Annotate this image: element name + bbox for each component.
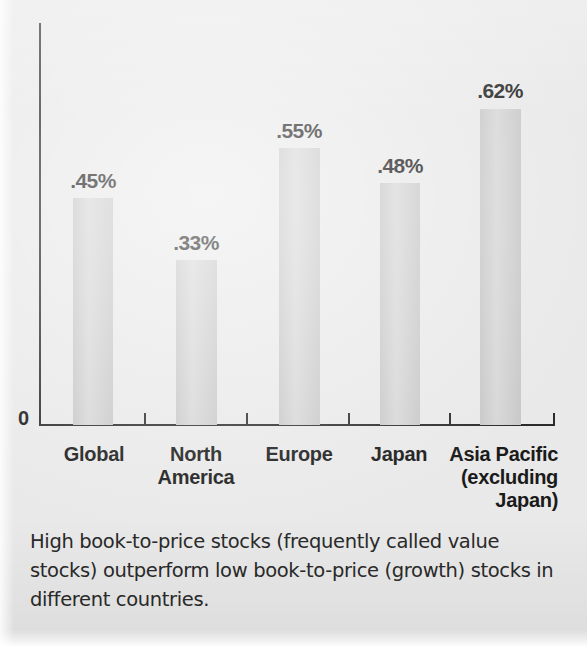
category-label-line: Asia Pacific xyxy=(428,443,558,466)
category-label-europe: Europe xyxy=(258,443,340,466)
bar-asia-pacific xyxy=(480,109,521,425)
chart-figure: 0 .45% .33% .55% .48% .62% Global North … xyxy=(0,0,587,646)
category-label-japan: Japan xyxy=(361,443,437,466)
bar-japan xyxy=(380,183,420,425)
bar-value-asia-pacific: .62% xyxy=(465,80,535,101)
category-label-line: (excluding xyxy=(428,466,558,489)
page-edge-highlight-bottom xyxy=(0,630,587,646)
bar-europe xyxy=(279,148,320,425)
category-label-north-america: North America xyxy=(155,443,237,489)
figure-caption: High book-to-price stocks (frequently ca… xyxy=(30,527,558,614)
bar-global xyxy=(73,198,113,425)
category-label-line: North xyxy=(155,443,237,466)
bar-value-global: .45% xyxy=(58,170,128,191)
y-axis-zero-label: 0 xyxy=(18,408,29,428)
x-axis-tick xyxy=(144,413,146,424)
x-axis-tick xyxy=(348,413,350,424)
bar-value-north-america: .33% xyxy=(161,232,231,253)
category-label-line: America xyxy=(155,466,237,489)
bar-value-europe: .55% xyxy=(264,120,334,141)
x-axis-tick xyxy=(449,413,451,424)
category-label-line: Europe xyxy=(258,443,340,466)
category-label-line: Japan) xyxy=(428,489,558,512)
category-label-line: Japan xyxy=(361,443,437,466)
category-label-asia-pacific: Asia Pacific (excluding Japan) xyxy=(428,443,558,512)
plot-area: 0 .45% .33% .55% .48% .62% xyxy=(0,0,587,440)
x-axis-category-labels: Global North America Europe Japan Asia P… xyxy=(0,437,587,527)
category-label-line: Global xyxy=(63,443,125,466)
y-axis-line xyxy=(39,23,41,426)
category-label-global: Global xyxy=(63,443,125,466)
bar-north-america xyxy=(176,260,217,425)
x-axis-tick xyxy=(553,413,555,424)
x-axis-tick xyxy=(246,413,248,424)
bar-value-japan: .48% xyxy=(365,155,435,176)
